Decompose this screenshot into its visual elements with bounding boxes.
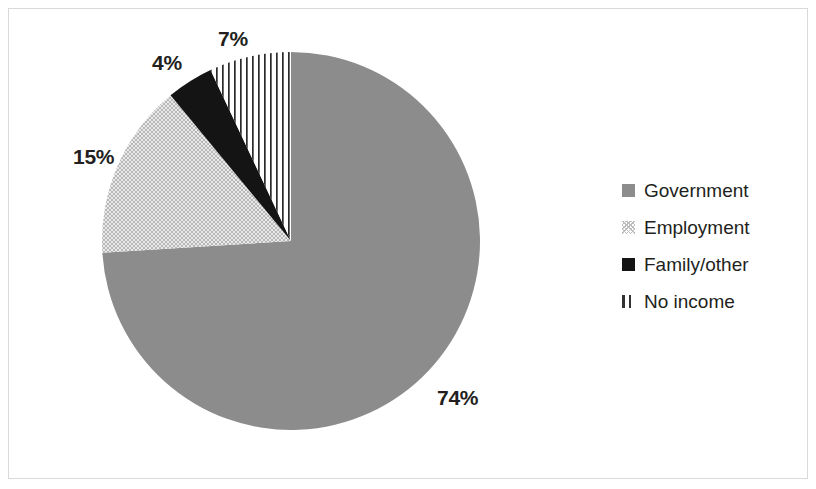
figure-border-right [807,8,808,479]
legend-label-no-income: No income [644,292,735,311]
legend-swatch-family-other-icon [622,258,635,271]
legend-item-family-other[interactable]: Family/other [622,246,802,283]
legend-swatch-employment-icon [622,221,635,234]
legend-label-employment: Employment [644,218,750,237]
legend-swatch-no-income-icon [622,295,635,308]
legend-item-employment[interactable]: Employment [622,209,802,246]
pie-chart-figure: 7% 4% 15% 74% Government Employment Fami… [0,0,816,489]
pie-svg [0,0,600,489]
legend-item-no-income[interactable]: No income [622,283,802,320]
legend-swatch-government-icon [622,184,635,197]
pie-slice-group [102,52,480,430]
legend-label-government: Government [644,181,749,200]
data-label-government: 74% [437,387,478,408]
pie-plot-area: 7% 4% 15% 74% [0,0,600,489]
data-label-no-income: 7% [218,28,248,49]
legend-item-government[interactable]: Government [622,172,802,209]
data-label-employment: 15% [73,146,114,167]
legend-label-family-other: Family/other [644,255,749,274]
chart-legend: Government Employment Family/other No in… [622,172,802,320]
data-label-family-other: 4% [152,52,182,73]
